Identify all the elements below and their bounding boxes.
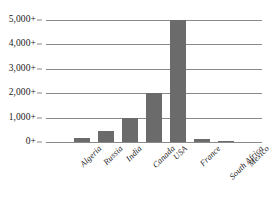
y-axis-tick-mark [37, 117, 42, 118]
bar [194, 139, 210, 142]
bar [122, 118, 138, 142]
y-axis-tick-label: 0+ [26, 137, 36, 147]
y-axis-tick-label: 1,000+ [9, 113, 36, 123]
x-axis-tick-label: Algeria [79, 144, 104, 169]
y-axis-tick-label: 2,000+ [9, 88, 36, 98]
bar-chart: 0+1,000+2,000+3,000+4,000+5,000+ Algeria… [0, 0, 273, 201]
y-axis-tick-mark [37, 68, 42, 69]
plot-area [46, 20, 262, 142]
bar [98, 131, 114, 142]
bars-group [46, 20, 262, 142]
y-axis-tick-label: 4,000+ [9, 40, 36, 50]
axis-baseline [46, 142, 262, 143]
y-axis-tick-mark [37, 44, 42, 45]
bar [170, 20, 186, 142]
y-axis: 0+1,000+2,000+3,000+4,000+5,000+ [0, 20, 42, 142]
bar [218, 141, 234, 142]
y-axis-tick-label: 3,000+ [9, 64, 36, 74]
y-axis-tick-mark [37, 142, 42, 143]
x-axis-tick-label: France [198, 144, 222, 168]
y-axis-tick-label: 5,000+ [9, 15, 36, 25]
bar [74, 138, 90, 142]
x-axis-tick-label: Mexico [247, 144, 271, 168]
bar [146, 93, 162, 142]
y-axis-tick-mark [37, 20, 42, 21]
y-axis-tick-mark [37, 93, 42, 94]
x-axis-tick-label: India [124, 144, 143, 163]
x-axis-tick-label: USA [172, 144, 189, 161]
x-axis-tick-label: Russia [102, 144, 124, 166]
x-axis: AlgeriaRussiaIndiaCanadaUSAFranceSouth A… [46, 144, 262, 201]
